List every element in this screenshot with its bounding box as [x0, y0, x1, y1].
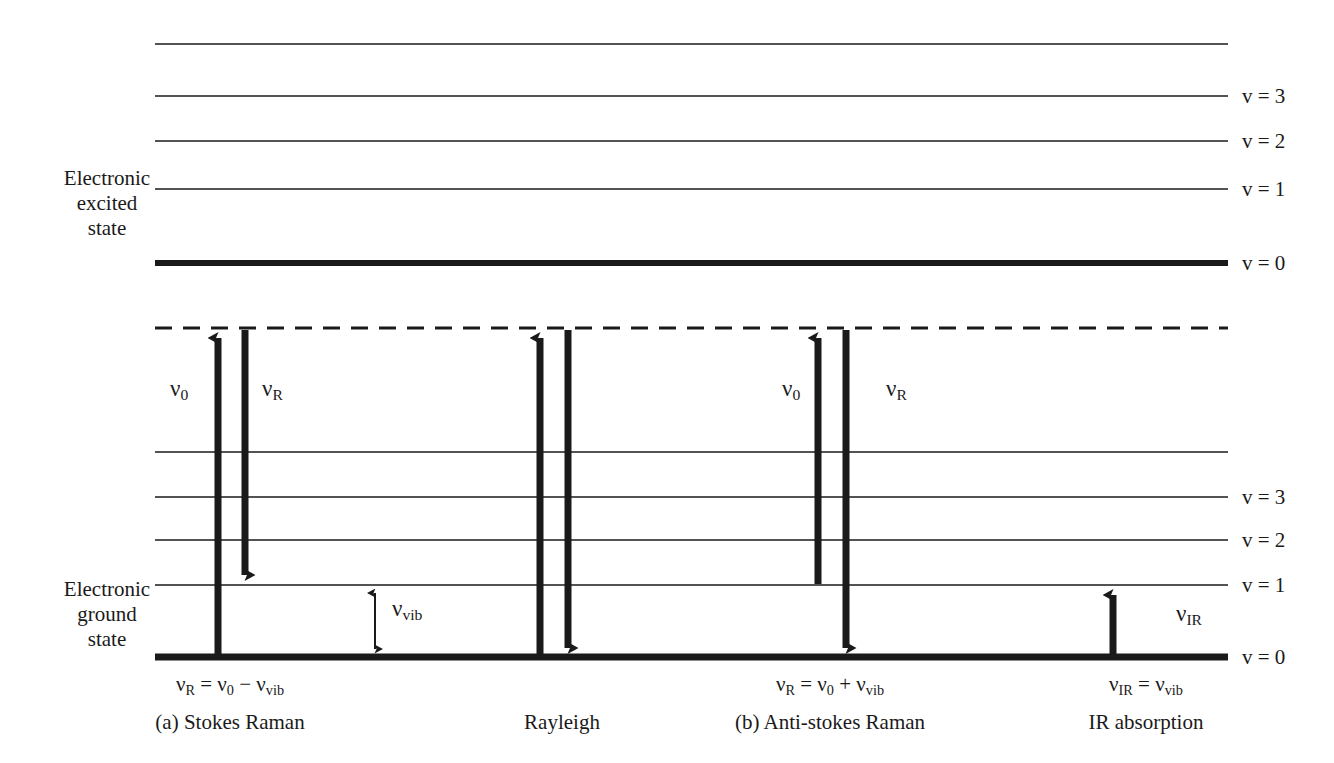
excited-level-label-v2: v = 2 — [1242, 129, 1285, 154]
stokes-nu0-label: ν0 — [170, 375, 188, 402]
nu-glyph: ν — [170, 376, 180, 401]
ground-state-label-line2: ground — [32, 602, 182, 627]
stokes-nuR-label: νR — [262, 375, 283, 402]
nuIR-subscript: IR — [1186, 611, 1202, 628]
anti-stokes-formula: νR = ν0 + νvib — [730, 672, 930, 697]
sub-vib: vib — [866, 682, 884, 698]
stokes-formula: νR = ν0 − νvib — [130, 672, 330, 697]
nu-glyph: ν — [1176, 601, 1186, 626]
sub-0: 0 — [827, 682, 834, 698]
nu-glyph: ν — [1155, 672, 1165, 696]
ground-state-label-line1: Electronic — [32, 577, 182, 602]
rayleigh-arrows — [540, 330, 568, 655]
excited-level-label-v3: v = 3 — [1242, 84, 1285, 109]
nu-glyph: ν — [392, 596, 402, 621]
nuR-subscript: R — [272, 386, 282, 403]
stokes-raman-arrows — [218, 330, 245, 655]
nu-glyph: ν — [217, 672, 227, 696]
caption-anti-stokes-raman: (b) Anti-stokes Raman — [700, 710, 960, 735]
excited-state-label-line1: Electronic — [32, 166, 182, 191]
nu-glyph: ν — [1109, 672, 1119, 696]
nu-glyph: ν — [886, 376, 896, 401]
excited-state-levels — [155, 44, 1228, 263]
caption-rayleigh: Rayleigh — [452, 710, 672, 735]
sub-R: R — [185, 682, 195, 698]
excited-level-label-v0: v = 0 — [1242, 251, 1285, 276]
sub-0: 0 — [227, 682, 234, 698]
ground-level-label-v0: v = 0 — [1242, 645, 1285, 670]
nu-glyph: ν — [856, 672, 866, 696]
excited-state-label-line2: excited — [32, 191, 182, 216]
nuR-subscript: R — [896, 386, 906, 403]
ground-state-label: Electronic ground state — [32, 577, 182, 651]
energy-level-diagram-svg — [0, 0, 1334, 763]
ground-state-levels — [155, 452, 1228, 657]
ground-level-label-v3: v = 3 — [1242, 485, 1285, 510]
sub-vib: vib — [266, 682, 284, 698]
ground-level-label-v2: v = 2 — [1242, 528, 1285, 553]
anti-stokes-nuR-label: νR — [886, 375, 907, 402]
ir-nuIR-label: νIR — [1176, 600, 1202, 627]
sub-R: R — [785, 682, 795, 698]
vib-gap-label: νvib — [392, 595, 422, 622]
nu-glyph: ν — [262, 376, 272, 401]
nu-glyph: ν — [256, 672, 266, 696]
excited-level-label-v1: v = 1 — [1242, 177, 1285, 202]
excited-state-label: Electronic excited state — [32, 166, 182, 240]
ground-level-label-v1: v = 1 — [1242, 573, 1285, 598]
nu0-subscript: 0 — [180, 386, 188, 403]
ir-formula: νIR = νvib — [1046, 672, 1246, 697]
figure-canvas: Electronic excited state Electronic grou… — [0, 0, 1334, 763]
caption-ir-absorption: IR absorption — [1036, 710, 1256, 735]
sub-vib: vib — [1165, 682, 1183, 698]
nuvib-subscript: vib — [402, 606, 422, 623]
ground-state-label-line3: state — [32, 627, 182, 652]
nu-glyph: ν — [782, 376, 792, 401]
excited-state-label-line3: state — [32, 216, 182, 241]
nu0-subscript: 0 — [792, 386, 800, 403]
nu-glyph: ν — [817, 672, 827, 696]
sub-IR: IR — [1119, 682, 1133, 698]
anti-stokes-raman-arrows — [818, 330, 846, 648]
anti-stokes-nu0-label: ν0 — [782, 375, 800, 402]
caption-stokes-raman: (a) Stokes Raman — [110, 710, 350, 735]
